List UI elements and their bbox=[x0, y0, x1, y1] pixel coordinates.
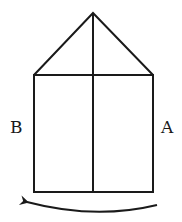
label-b: B bbox=[10, 117, 23, 137]
label-a: A bbox=[160, 117, 174, 137]
rotation-arrow-icon bbox=[27, 202, 157, 212]
house-diagram: B A bbox=[0, 0, 182, 222]
